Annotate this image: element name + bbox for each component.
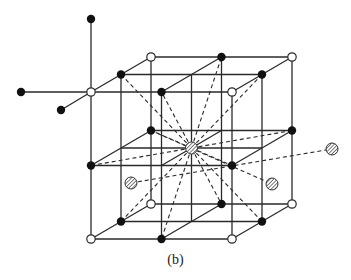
- open-corner-atom: [87, 235, 95, 243]
- dashed-bond: [162, 148, 192, 239]
- dark-edge-atom: [147, 126, 155, 134]
- open-corner-atom: [288, 200, 296, 208]
- lattice-atoms: [17, 15, 338, 243]
- open-corner-atom: [147, 200, 155, 208]
- dark-edge-atom: [288, 126, 296, 134]
- external-hatched-atom: [125, 177, 137, 189]
- axis-line: [61, 92, 91, 110]
- dark-edge-atom: [228, 161, 236, 169]
- open-corner-atom: [147, 53, 155, 61]
- dark-edge-atom: [157, 88, 165, 96]
- axis-lines: [21, 19, 91, 110]
- external-hatched-atom: [266, 178, 278, 190]
- axis-dark-atom: [17, 88, 25, 96]
- external-hatched-atom: [326, 143, 338, 155]
- dark-edge-atom: [217, 200, 225, 208]
- open-corner-atom: [228, 88, 236, 96]
- dark-edge-atom: [117, 217, 125, 225]
- dark-edge-atom: [258, 217, 266, 225]
- hatched-centre-atom: [186, 142, 198, 154]
- dashed-bond: [192, 75, 263, 149]
- dashed-bond: [192, 148, 263, 222]
- open-corner-atom: [228, 235, 236, 243]
- dashed-bond: [162, 92, 192, 148]
- dashed-bond: [192, 148, 222, 204]
- dark-edge-atom: [87, 161, 95, 169]
- axis-dark-atom: [87, 15, 95, 23]
- axis-dark-atom: [57, 106, 65, 114]
- dark-edge-atom: [217, 53, 225, 61]
- open-corner-atom: [288, 53, 296, 61]
- cubic-lattice-diagram: [0, 0, 351, 280]
- figure-caption: (b): [0, 252, 351, 268]
- dashed-bond: [121, 75, 192, 149]
- open-corner-atom: [87, 88, 95, 96]
- dashed-bond: [192, 57, 222, 148]
- dark-edge-atom: [157, 235, 165, 243]
- dark-edge-atom: [117, 70, 125, 78]
- dark-edge-atom: [258, 70, 266, 78]
